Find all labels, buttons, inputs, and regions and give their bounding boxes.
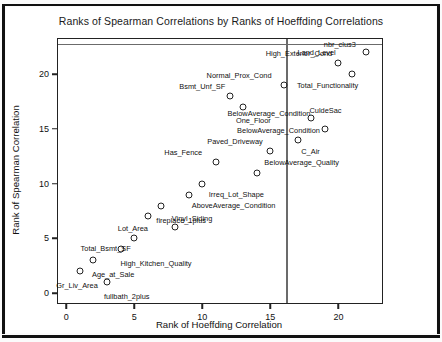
vertical-reference-line <box>286 39 288 303</box>
plot-area: Gr_Liv_AreaAge_at_Salefullbath_2plusHigh… <box>57 38 383 304</box>
data-point <box>321 125 328 132</box>
data-point-label: Total_Bsmt_SF <box>81 243 131 252</box>
data-point <box>76 268 83 275</box>
y-axis-tick-label: 20 <box>39 69 49 79</box>
scatter-chart: Ranks of Spearman Correlations by Ranks … <box>6 7 436 333</box>
data-point <box>104 279 111 286</box>
chart-title: Ranks of Spearman Correlations by Ranks … <box>6 15 436 27</box>
window-border-right <box>437 4 440 334</box>
data-point <box>172 224 179 231</box>
y-axis-tick-label: 10 <box>39 179 49 189</box>
data-point-label: Bsmt_Unf_SF <box>179 81 225 90</box>
data-point-label: Age_at_Sale <box>92 269 134 278</box>
data-point <box>253 169 260 176</box>
data-point-label: High_Kitchen_Quality <box>120 259 191 268</box>
y-axis-tick <box>52 292 57 294</box>
y-axis-tick <box>52 238 57 240</box>
data-point-label: nbr_clus3 <box>324 39 356 48</box>
data-point <box>335 60 342 67</box>
y-axis-tick <box>52 73 57 75</box>
y-axis-tick-label: 0 <box>44 288 49 298</box>
data-point-label: CuldeSac <box>309 105 341 114</box>
y-axis-label: Rank of Spearman Correlation <box>10 105 21 235</box>
y-axis-tick-label: 5 <box>44 233 49 243</box>
y-axis-tick-label: 15 <box>39 124 49 134</box>
data-point-label: Has_Fence <box>164 148 202 157</box>
data-point-label: Total_Functionality <box>297 81 358 90</box>
window-border-top <box>2 4 440 6</box>
data-point-label: Lot_Area <box>118 223 148 232</box>
data-point-label: BelowAverage_Condition <box>237 126 320 135</box>
data-point <box>349 71 356 78</box>
data-point-label: Irreq_Lot_Shape <box>209 190 264 199</box>
data-point <box>226 92 233 99</box>
data-point <box>144 213 151 220</box>
x-axis-tick <box>133 304 135 309</box>
x-axis-tick <box>202 304 204 309</box>
data-point-label: AboveAverage_Condition <box>192 200 276 209</box>
x-axis-label: Rank of Hoeffding Correlation <box>57 319 381 330</box>
window-border-left <box>2 4 5 334</box>
data-point <box>212 158 219 165</box>
data-point-label: Vinyl_Siding <box>172 214 213 223</box>
data-point <box>185 191 192 198</box>
data-point <box>158 202 165 209</box>
data-point <box>131 235 138 242</box>
data-point-label: C_Air <box>301 147 319 156</box>
plot-inner: Gr_Liv_AreaAge_at_Salefullbath_2plusHigh… <box>58 39 382 303</box>
window-border-bottom <box>2 335 440 338</box>
data-point-label: Paved_Driveway <box>207 137 262 146</box>
data-point-label: Normal_Prox_Cond <box>207 70 272 79</box>
data-point-label: Land_Level <box>298 47 336 56</box>
y-axis-tick <box>52 128 57 130</box>
x-axis-tick <box>338 304 340 309</box>
data-point-label: BelowAverage_Condition <box>228 109 311 118</box>
screenshot-frame: Ranks of Spearman Correlations by Ranks … <box>0 0 442 342</box>
data-point-label: BelowAverage_Quality <box>264 158 339 167</box>
data-point <box>267 147 274 154</box>
data-point <box>362 49 369 56</box>
data-point <box>199 180 206 187</box>
x-axis-tick <box>270 304 272 309</box>
data-point-label: Gr_Liv_Area <box>56 280 98 289</box>
data-point <box>280 82 287 89</box>
x-axis-tick <box>65 304 67 309</box>
data-point-label: fullbath_2plus <box>104 291 150 300</box>
y-axis-tick <box>52 183 57 185</box>
data-point <box>90 257 97 264</box>
data-point <box>294 136 301 143</box>
